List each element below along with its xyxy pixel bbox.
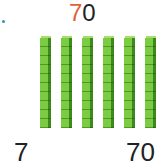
total-value-label: 70 — [126, 138, 155, 166]
tens-digit: 7 — [69, 0, 82, 26]
ten-rod — [82, 36, 93, 128]
ten-rod — [124, 36, 135, 128]
number-title: 70 — [69, 0, 96, 26]
ten-rod — [145, 36, 156, 128]
ten-rods-group — [40, 36, 163, 128]
ones-digit: 0 — [82, 0, 95, 26]
ten-rod — [61, 36, 72, 128]
bullet-dot — [2, 20, 5, 23]
ten-rod — [40, 36, 51, 128]
ten-rod — [103, 36, 114, 128]
tens-count-label: 7 — [14, 138, 28, 166]
